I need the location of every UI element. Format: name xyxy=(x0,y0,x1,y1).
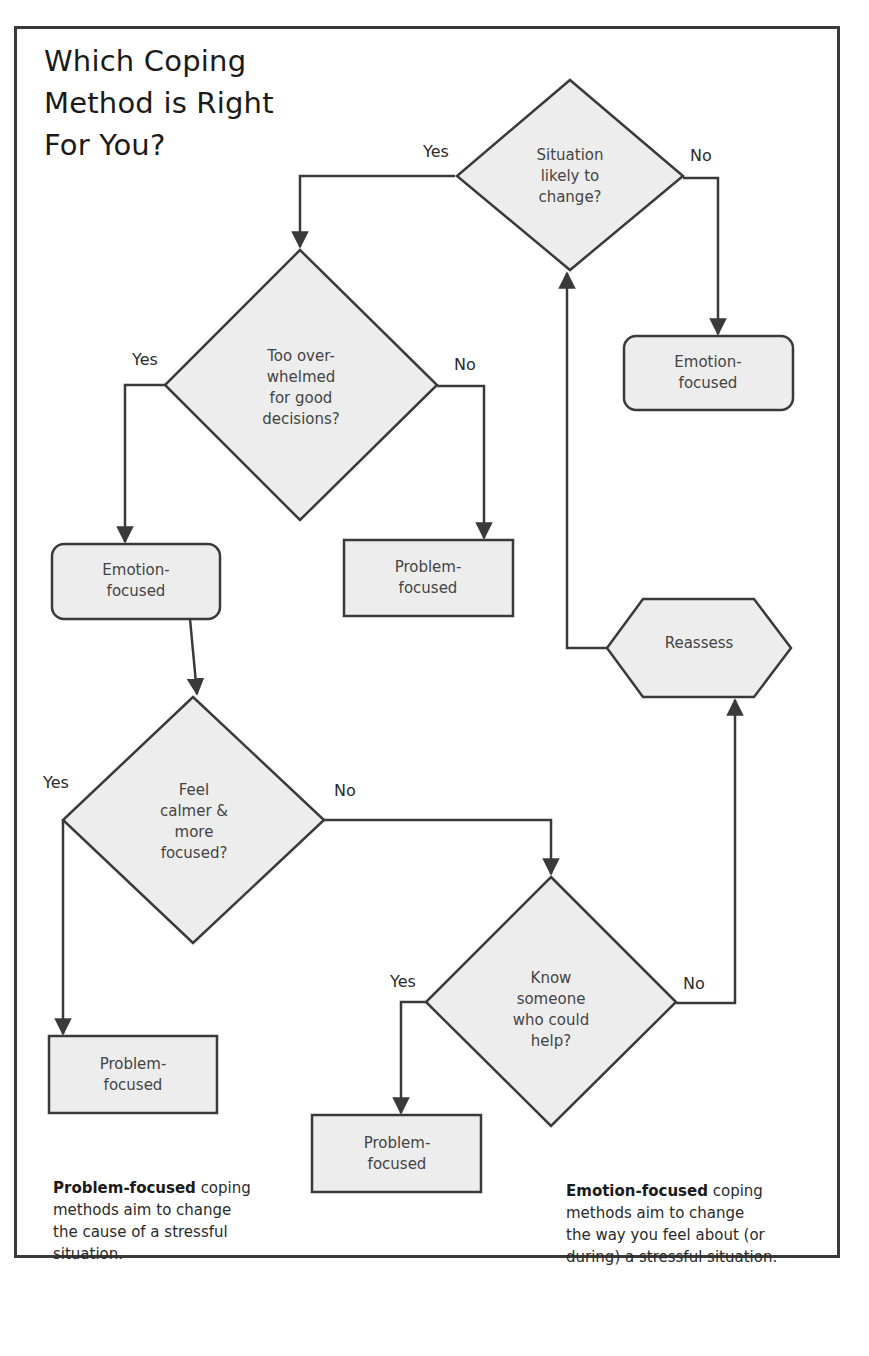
label-calmer-no: No xyxy=(334,781,356,800)
edge-situation-no xyxy=(683,178,718,334)
box-problem-focused-left-text: Problem- focused xyxy=(100,1054,167,1096)
box-emotion-focused-top-text: Emotion- focused xyxy=(674,352,741,394)
decision-situation-change-text: Situation likely to change? xyxy=(536,145,603,208)
label-know-no: No xyxy=(683,974,705,993)
edge-know-no xyxy=(676,700,735,1003)
edge-overwhelmed-yes xyxy=(125,385,165,542)
decision-calmer-text: Feel calmer & more focused? xyxy=(160,780,228,864)
box-problem-focused-bottom-text: Problem- focused xyxy=(364,1133,431,1175)
label-calmer-yes: Yes xyxy=(43,773,69,792)
note-problem-focused: Problem-focused coping methods aim to ch… xyxy=(53,1177,251,1265)
label-overwhelmed-no: No xyxy=(454,355,476,374)
edge-emotion-to-calmer xyxy=(190,619,197,694)
label-situation-no: No xyxy=(690,146,712,165)
label-know-yes: Yes xyxy=(390,972,416,991)
edge-overwhelmed-no xyxy=(437,386,484,538)
note-emotion-term: Emotion-focused xyxy=(566,1182,708,1200)
decision-know-someone-text: Know someone who could help? xyxy=(513,968,589,1052)
edge-know-yes xyxy=(401,1002,426,1113)
note-problem-term: Problem-focused xyxy=(53,1179,196,1197)
box-emotion-focused-left-text: Emotion- focused xyxy=(102,560,169,602)
decision-overwhelmed-text: Too over- whelmed for good decisions? xyxy=(262,346,340,430)
label-overwhelmed-yes: Yes xyxy=(132,350,158,369)
edge-calmer-no xyxy=(324,820,551,874)
edge-situation-yes xyxy=(300,176,455,247)
flowchart-canvas xyxy=(0,0,869,1356)
edge-reassess-to-situation xyxy=(567,273,607,648)
label-situation-yes: Yes xyxy=(423,142,449,161)
box-problem-focused-mid-text: Problem- focused xyxy=(395,557,462,599)
page-title: Which Coping Method is Right For You? xyxy=(44,40,274,166)
note-emotion-focused: Emotion-focused coping methods aim to ch… xyxy=(566,1180,777,1268)
hexagon-reassess-text: Reassess xyxy=(665,633,734,654)
